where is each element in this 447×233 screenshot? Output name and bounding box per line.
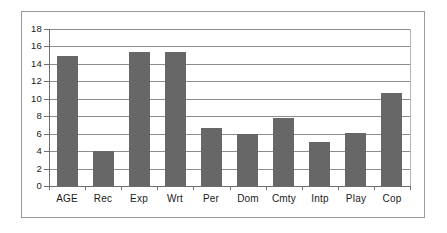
y-axis-spine [49,29,50,187]
y-tick-label: 6 [16,129,42,139]
plot-right-spine [410,29,411,187]
y-tick-label: 14 [16,59,42,69]
bar-cmty [273,118,294,186]
x-tick-mark [266,186,267,190]
x-tick-label-cop: Cop [374,193,410,205]
x-tick-mark [85,186,86,190]
y-tick-label: 16 [16,41,42,51]
bar-age [57,56,78,186]
x-tick-label-dom: Dom [230,193,266,205]
x-tick-label-exp: Exp [121,193,157,205]
x-tick-label-wrt: Wrt [157,193,193,205]
x-tick-mark [230,186,231,190]
y-tick-label: 4 [16,146,42,156]
x-tick-label-rec: Rec [85,193,121,205]
bar-dom [237,134,258,186]
gridline [49,46,410,47]
y-tick-mark [44,134,50,135]
bar-play [345,133,366,186]
x-tick-mark [193,186,194,190]
x-tick-label-age: AGE [49,193,85,205]
y-tick-label: 12 [16,76,42,86]
x-tick-mark [302,186,303,190]
x-tick-label-per: Per [193,193,229,205]
bar-exp [129,52,150,186]
y-tick-label: 8 [16,111,42,121]
y-tick-label: 0 [16,181,42,191]
y-axis-tick-labels: 024681012141618 [14,0,42,233]
y-tick-mark [44,99,50,100]
x-tick-mark [157,186,158,190]
x-tick-label-cmty: Cmty [266,193,302,205]
y-tick-mark [44,116,50,117]
y-tick-label: 18 [16,24,42,34]
bar-rec [93,151,114,186]
y-tick-mark [44,169,50,170]
x-tick-mark [338,186,339,190]
bar-wrt [165,52,186,186]
gridline [49,116,410,117]
x-tick-mark [49,186,50,190]
y-tick-mark [44,29,50,30]
x-tick-mark [121,186,122,190]
x-tick-mark [374,186,375,190]
y-tick-label: 10 [16,94,42,104]
gridline [49,64,410,65]
y-tick-mark [44,81,50,82]
bar-chart-figure: 024681012141618 AGERecExpWrtPerDomCmtyIn… [0,0,447,233]
gridline [49,81,410,82]
bar-intp [309,142,330,186]
gridline [49,29,410,30]
bar-cop [381,93,402,186]
gridline [49,99,410,100]
y-tick-mark [44,46,50,47]
y-tick-mark [44,151,50,152]
y-tick-mark [44,64,50,65]
x-tick-label-play: Play [338,193,374,205]
x-tick-label-intp: Intp [302,193,338,205]
x-tick-mark [410,186,411,190]
bar-per [201,128,222,186]
y-tick-label: 2 [16,164,42,174]
